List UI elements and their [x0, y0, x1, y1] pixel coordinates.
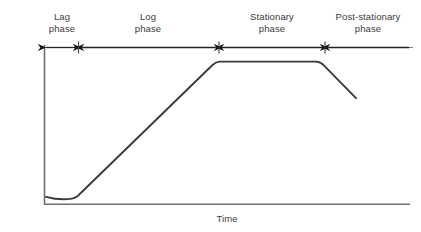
growth-curve-figure: Lag phase Log phase Stationary phase Pos… — [0, 0, 421, 232]
phase-label-post-stationary-line2: phase — [336, 23, 401, 35]
phase-label-stationary-line1: Stationary — [250, 11, 294, 22]
y-axis-title: Number of organisms — [6, 84, 36, 108]
growth-curve-svg — [0, 0, 421, 232]
growth-curve-path — [46, 62, 356, 200]
phase-label-log-line1: Log — [140, 11, 156, 22]
phase-label-stationary-line2: phase — [250, 23, 294, 35]
phase-label-log-line2: phase — [135, 23, 161, 35]
x-axis-title: Time — [216, 213, 237, 224]
phase-label-lag-line1: Lag — [54, 11, 70, 22]
phase-label-lag: Lag phase — [49, 11, 75, 34]
phase-label-log: Log phase — [135, 11, 161, 34]
axis-lines — [44, 45, 410, 205]
phase-label-lag-line2: phase — [49, 23, 75, 35]
phase-label-post-stationary-line1: Post-stationary — [336, 11, 401, 22]
phase-label-stationary: Stationary phase — [250, 11, 294, 34]
phase-label-post-stationary: Post-stationary phase — [336, 11, 401, 34]
